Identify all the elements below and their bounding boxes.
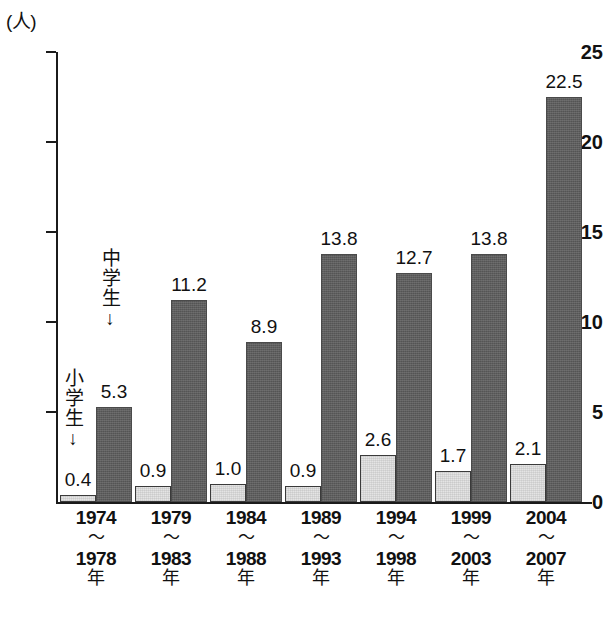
elementary-bar-3 xyxy=(210,484,246,502)
junior-bar-6 xyxy=(471,254,507,502)
x-label-start-year: 1989 xyxy=(301,508,341,527)
x-label-end-year: 1978 xyxy=(76,549,116,568)
x-axis-label-6: 1999〜2003年 xyxy=(451,508,491,590)
x-label-end-year: 1998 xyxy=(376,549,416,568)
elementary-bar-1 xyxy=(60,495,96,502)
x-label-start-year: 1984 xyxy=(226,508,266,527)
junior-bar-1 xyxy=(96,407,132,502)
x-label-end-year: 1983 xyxy=(151,549,191,568)
x-label-year-suffix: 年 xyxy=(526,568,566,590)
x-label-year-suffix: 年 xyxy=(451,568,491,590)
elementary-value-label-6: 1.7 xyxy=(440,445,466,467)
elementary-bar-2 xyxy=(135,486,171,502)
series-annotation-junior: 中学生↓ xyxy=(97,248,123,329)
x-label-year-suffix: 年 xyxy=(301,568,341,590)
junior-bar-2 xyxy=(171,300,207,502)
elementary-bar-7 xyxy=(510,464,546,502)
elementary-value-label-2: 0.9 xyxy=(140,460,166,482)
x-label-range-separator: 〜 xyxy=(451,527,491,548)
junior-value-label-4: 13.8 xyxy=(321,228,358,250)
elementary-value-label-1: 0.4 xyxy=(65,469,91,491)
x-label-start-year: 2004 xyxy=(526,508,566,527)
x-label-range-separator: 〜 xyxy=(526,527,566,548)
bar-chart: (人) 0510152025 0.45.30.911.21.08.90.913.… xyxy=(0,0,603,628)
junior-value-label-1: 5.3 xyxy=(101,381,127,403)
down-arrow-icon: ↓ xyxy=(60,429,86,449)
x-label-range-separator: 〜 xyxy=(376,527,416,548)
x-label-start-year: 1974 xyxy=(76,508,116,527)
series-annotation-elementary: 小学生↓ xyxy=(60,368,86,449)
junior-bar-7 xyxy=(546,97,582,502)
elementary-value-label-5: 2.6 xyxy=(365,429,391,451)
x-axis-label-7: 2004〜2007年 xyxy=(526,508,566,590)
x-axis-label-1: 1974〜1978年 xyxy=(76,508,116,590)
elementary-bar-4 xyxy=(285,486,321,502)
x-label-end-year: 2003 xyxy=(451,549,491,568)
x-label-end-year: 2007 xyxy=(526,549,566,568)
junior-value-label-7: 22.5 xyxy=(546,71,583,93)
x-axis-label-3: 1984〜1988年 xyxy=(226,508,266,590)
elementary-bar-6 xyxy=(435,471,471,502)
series-annotation-label: 小学生 xyxy=(64,368,83,428)
x-axis-label-2: 1979〜1983年 xyxy=(151,508,191,590)
x-label-range-separator: 〜 xyxy=(151,527,191,548)
x-axis-label-5: 1994〜1998年 xyxy=(376,508,416,590)
down-arrow-icon: ↓ xyxy=(97,309,123,329)
x-label-year-suffix: 年 xyxy=(376,568,416,590)
x-label-start-year: 1979 xyxy=(151,508,191,527)
series-annotation-label: 中学生 xyxy=(101,248,120,308)
junior-value-label-3: 8.9 xyxy=(251,316,277,338)
x-label-end-year: 1988 xyxy=(226,549,266,568)
x-label-start-year: 1994 xyxy=(376,508,416,527)
junior-value-label-6: 13.8 xyxy=(471,228,508,250)
x-label-range-separator: 〜 xyxy=(301,527,341,548)
x-label-year-suffix: 年 xyxy=(226,568,266,590)
junior-bar-3 xyxy=(246,342,282,502)
junior-value-label-2: 11.2 xyxy=(171,274,207,296)
junior-bar-5 xyxy=(396,273,432,502)
x-label-range-separator: 〜 xyxy=(76,527,116,548)
elementary-value-label-7: 2.1 xyxy=(515,438,541,460)
x-label-start-year: 1999 xyxy=(451,508,491,527)
x-axis-label-4: 1989〜1993年 xyxy=(301,508,341,590)
x-label-end-year: 1993 xyxy=(301,549,341,568)
elementary-bar-5 xyxy=(360,455,396,502)
junior-bar-4 xyxy=(321,254,357,502)
x-label-year-suffix: 年 xyxy=(76,568,116,590)
elementary-value-label-3: 1.0 xyxy=(215,458,241,480)
x-label-year-suffix: 年 xyxy=(151,568,191,590)
elementary-value-label-4: 0.9 xyxy=(290,460,316,482)
x-label-range-separator: 〜 xyxy=(226,527,266,548)
junior-value-label-5: 12.7 xyxy=(396,247,433,269)
